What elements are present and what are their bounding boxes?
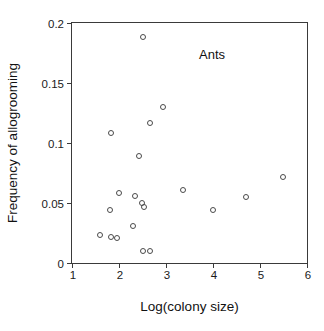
data-point	[97, 232, 103, 238]
x-axis-tick-label: 4	[211, 269, 217, 281]
data-point	[107, 207, 113, 213]
data-point	[132, 193, 138, 199]
x-axis-title: Log(colony size)	[71, 299, 308, 314]
y-axis-tick: 0.2	[67, 23, 72, 24]
y-axis-tick: 0.05	[67, 203, 72, 204]
data-point	[140, 34, 146, 40]
x-axis-tick: 5	[260, 263, 261, 268]
data-point	[141, 204, 147, 210]
data-point	[210, 207, 216, 213]
data-point	[280, 174, 286, 180]
data-point	[116, 190, 122, 196]
data-point	[147, 248, 153, 254]
y-axis-tick-label: 0.2	[48, 18, 64, 30]
plot-area: 00.050.10.150.2123456	[71, 22, 308, 264]
y-axis-tick: 0.1	[67, 143, 72, 144]
data-point	[140, 248, 146, 254]
x-axis-tick-label: 3	[164, 269, 170, 281]
data-point	[136, 153, 142, 159]
x-axis-tick: 2	[119, 263, 120, 268]
data-point	[114, 235, 120, 241]
x-axis-tick: 4	[213, 263, 214, 268]
x-axis-tick-label: 6	[305, 269, 311, 281]
y-axis-tick-label: 0.05	[42, 198, 64, 210]
y-axis-tick-label: 0.15	[42, 78, 64, 90]
data-point	[243, 194, 249, 200]
series-annotation-ants: Ants	[199, 47, 225, 62]
data-point	[180, 187, 186, 193]
x-axis-tick: 3	[166, 263, 167, 268]
data-point	[160, 104, 166, 110]
data-point	[147, 120, 153, 126]
y-axis-tick-label: 0	[58, 258, 64, 270]
x-axis-tick-label: 5	[258, 269, 264, 281]
y-axis-tick: 0.15	[67, 83, 72, 84]
x-axis-tick: 6	[307, 263, 308, 268]
x-axis-tick: 1	[72, 263, 73, 268]
data-point	[130, 223, 136, 229]
data-point	[108, 130, 114, 136]
y-axis-title: Frequency of allogrooming	[4, 22, 22, 264]
x-axis-tick-label: 2	[117, 269, 123, 281]
y-axis-tick-label: 0.1	[48, 138, 64, 150]
scatter-plot-figure: Frequency of allogrooming 00.050.10.150.…	[0, 0, 324, 331]
x-axis-tick-label: 1	[70, 269, 76, 281]
